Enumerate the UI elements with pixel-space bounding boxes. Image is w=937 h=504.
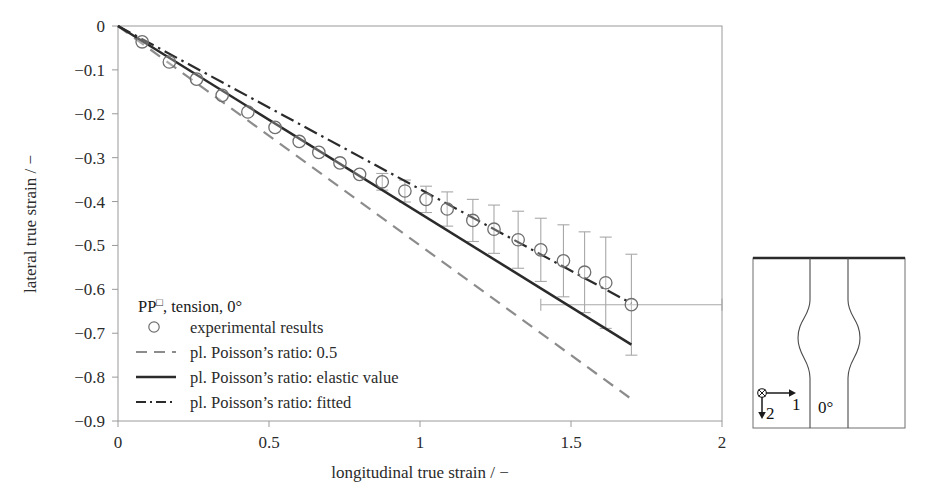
data-point-marker [467,214,479,226]
x-tick-label: 1 [416,433,425,452]
y-tick-label: 0 [97,17,106,36]
data-point-marker [512,234,524,246]
legend-header-material: PP [138,297,156,316]
data-point-marker [557,255,569,267]
data-point-marker [190,73,202,85]
data-point-marker [242,106,254,118]
x-tick-label: 0 [114,433,123,452]
y-tick-label: −0.8 [74,368,105,387]
specimen-angle-label: 0° [818,398,833,417]
legend-label-poisson-05: pl. Poisson’s ratio: 0.5 [190,343,337,362]
axis-2-label: 2 [766,404,775,423]
y-tick-label: −0.2 [74,105,105,124]
data-point-marker [376,176,388,188]
x-axis-ticks: 00.511.52 [114,421,727,452]
data-point-marker [293,135,305,147]
y-axis-ticks: 0−0.1−0.2−0.3−0.4−0.5−0.6−0.7−0.8−0.9 [74,17,118,431]
data-point-marker [488,223,500,235]
legend-label-experimental: experimental results [190,318,323,337]
y-tick-label: −0.9 [74,412,105,431]
data-point-marker [216,89,228,101]
data-point-marker [600,277,612,289]
figure-container: 00.511.52 0−0.1−0.2−0.3−0.4−0.5−0.6−0.7−… [0,0,937,504]
data-point-marker [625,298,637,310]
data-point-marker [420,193,432,205]
data-point-marker [313,146,325,158]
data-point-marker [353,168,365,180]
y-tick-label: −0.4 [74,193,105,212]
data-point-marker [441,203,453,215]
x-tick-label: 1.5 [560,433,581,452]
data-point-marker [163,56,175,68]
legend-header-rest: , tension, 0° [163,297,242,316]
data-point-marker [269,121,281,133]
x-axis-title: longitudinal true strain / − [331,463,509,482]
data-point-marker [535,244,547,256]
data-point-marker [399,185,411,197]
data-point-marker [334,157,346,169]
specimen-schematic: 1 2 0° [753,258,905,428]
y-tick-label: −0.3 [74,149,105,168]
legend-label-poisson-elastic: pl. Poisson’s ratio: elastic value [190,368,399,387]
y-tick-label: −0.6 [74,280,105,299]
legend-header: PP□, tension, 0° [138,296,242,316]
x-tick-label: 2 [718,433,727,452]
chart-canvas: 00.511.52 0−0.1−0.2−0.3−0.4−0.5−0.6−0.7−… [0,0,937,504]
axis-1-label: 1 [792,395,801,414]
x-tick-label: 0.5 [258,433,279,452]
legend-label-poisson-fitted: pl. Poisson’s ratio: fitted [190,393,352,412]
y-tick-label: −0.5 [74,236,105,255]
data-point-marker [136,36,148,48]
y-tick-label: −0.7 [74,324,105,343]
y-tick-label: −0.1 [74,61,105,80]
y-axis-title: lateral true strain / − [21,155,40,293]
data-point-marker [578,266,590,278]
